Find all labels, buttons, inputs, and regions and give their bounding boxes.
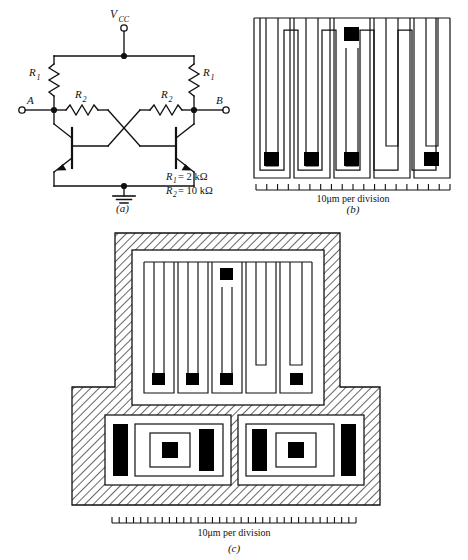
q1-emitter-arrow-icon xyxy=(57,164,67,171)
panel-a-schematic: V CC A B R 1 R 1 R 2 R 2 R 1 = 2 kΩ R 2 xyxy=(0,0,250,215)
r2-left-body xyxy=(66,105,98,115)
transistor-2 xyxy=(238,415,364,485)
finger-4-outer xyxy=(374,18,410,178)
panel-c-caption: (c) xyxy=(228,542,241,555)
r1-right-label: R xyxy=(202,66,210,78)
panel-a-caption: (a) xyxy=(116,202,129,215)
c-pad-bottom-4 xyxy=(290,373,303,385)
junction-dot-vcc xyxy=(121,53,127,59)
finger-4-inner xyxy=(386,18,398,146)
figure-root: V CC A B R 1 R 1 R 2 R 2 R 1 = 2 kΩ R 2 xyxy=(0,0,468,560)
transistor-1 xyxy=(105,415,231,485)
t1-emitter-stripe-left xyxy=(113,424,128,476)
c-pad-bottom-3 xyxy=(220,373,233,385)
vcc-subscript: CC xyxy=(119,15,130,24)
panel-b-resistor-layout: 10μm per division (b) xyxy=(250,0,468,215)
value-r2-text: = 10 kΩ xyxy=(178,185,213,196)
component-values: R 1 = 2 kΩ R 2 = 10 kΩ xyxy=(165,171,213,199)
c-pad-top-center xyxy=(220,268,233,280)
r1-left-label: R xyxy=(28,66,36,78)
resistor-layout-svg: 10μm per division (b) xyxy=(250,0,468,215)
t2-emitter-stripe-right xyxy=(341,424,356,476)
contact-pad-bottom-2 xyxy=(304,152,319,166)
panel-c-chip-layout: 10μm per division (c) xyxy=(0,215,468,560)
scale-ticks-c xyxy=(112,517,356,523)
scale-bar-c xyxy=(112,517,356,523)
t1-collector-contact xyxy=(162,442,178,458)
terminal-a-icon xyxy=(19,107,25,113)
r1-right-subscript: 1 xyxy=(211,73,215,82)
q1-collector-slant xyxy=(54,124,72,138)
scale-bar-b xyxy=(256,184,450,190)
r1-right-body xyxy=(189,64,199,96)
t2-emitter-stripe-left-2 xyxy=(252,429,267,471)
schematic-svg: V CC A B R 1 R 1 R 2 R 2 R 1 = 2 kΩ R 2 xyxy=(0,0,250,215)
r2-left-subscript: 2 xyxy=(83,95,87,104)
contact-pad-bottom-3 xyxy=(344,152,359,166)
contact-pad-top-center xyxy=(344,27,359,41)
contact-pad-bottom-1 xyxy=(264,152,279,166)
terminal-b-icon xyxy=(223,107,229,113)
q2-collector-slant xyxy=(176,124,194,138)
q2-emitter-arrow-icon xyxy=(182,164,192,171)
value-r2-subscript: 2 xyxy=(173,190,177,199)
finger-1-inner xyxy=(266,18,278,166)
terminal-b-label: B xyxy=(216,94,223,106)
chip-layout-svg: 10μm per division (c) xyxy=(0,215,468,560)
r2-left-label: R xyxy=(74,88,82,100)
t1-emitter-stripe-right xyxy=(199,429,214,471)
scale-label-c: 10μm per division xyxy=(197,527,270,538)
r1-left-subscript: 1 xyxy=(37,73,41,82)
finger-3-inner xyxy=(346,48,358,166)
value-r2-symbol: R xyxy=(165,185,173,196)
finger-2-inner xyxy=(306,18,318,166)
terminal-a-label: A xyxy=(26,94,34,106)
contact-pad-bottom-4 xyxy=(424,152,439,166)
vcc-terminal-icon xyxy=(121,25,127,31)
r2-right-label: R xyxy=(160,88,168,100)
c-pad-bottom-2 xyxy=(186,373,199,385)
r1-left-body xyxy=(49,64,59,96)
r2-right-body xyxy=(150,105,182,115)
value-r1-text: = 2 kΩ xyxy=(178,171,208,182)
r2-right-subscript: 2 xyxy=(169,95,173,104)
c-pad-bottom-1 xyxy=(152,373,165,385)
value-r1-subscript: 1 xyxy=(173,176,177,185)
scale-ticks-b xyxy=(256,184,450,190)
t2-collector-contact xyxy=(288,442,304,458)
value-r1-symbol: R xyxy=(165,171,173,182)
